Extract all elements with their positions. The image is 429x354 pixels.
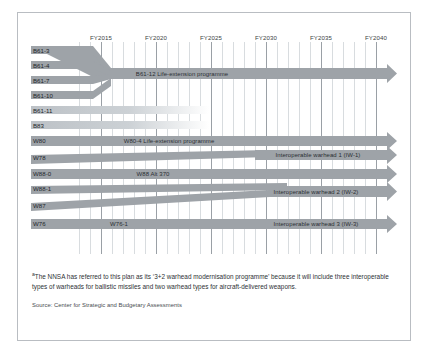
bar-label-w76-1: W76-1 [110, 221, 128, 227]
bar-label-w88-alt-370: W88 Alt 370 [137, 171, 170, 177]
figure-panel: FY2015 FY2020 FY2025 FY2030 FY2035 FY204… [17, 12, 411, 341]
row-label-w87: W87 [33, 202, 46, 209]
row-label-w80: W80 [33, 137, 46, 144]
footnote-body: The NNSA has referred to this plan as it… [32, 273, 389, 290]
row-label-b61-3: B61-3 [33, 47, 50, 54]
row-label-w76: W76 [33, 220, 46, 227]
bar-label-b61-12-lep: B61-12 Life-extension programme [136, 71, 228, 77]
footnote-text: aThe NNSA has referred to this plan as i… [32, 269, 396, 293]
bar-label-iw-1: Interoperable warhead 1 (IW-1) [276, 152, 361, 158]
bar-label-iw-3: Interoperable warhead 3 (IW-3) [274, 221, 359, 227]
bar-label-w80-4-lep: W80-4 Life-extension programme [124, 138, 215, 144]
bar-label-iw-2: Interoperable warhead 2 (IW-2) [274, 189, 359, 195]
row-label-w88-0: W88-0 [33, 170, 51, 177]
timeline-chart: FY2015 FY2020 FY2025 FY2030 FY2035 FY204… [19, 14, 411, 262]
row-label-b61-7: B61-7 [33, 77, 50, 84]
notes-block: aThe NNSA has referred to this plan as i… [32, 269, 396, 308]
row-label-b83: B83 [33, 122, 44, 129]
row-label-w78: W78 [33, 154, 46, 161]
source-line: Source: Center for Strategic and Budgeta… [32, 302, 396, 308]
row-label-w88-1: W88-1 [33, 185, 51, 192]
row-label-b61-4: B61-4 [33, 62, 50, 69]
row-label-b61-11: B61-11 [33, 107, 53, 114]
row-label-b61-10: B61-10 [33, 92, 53, 99]
